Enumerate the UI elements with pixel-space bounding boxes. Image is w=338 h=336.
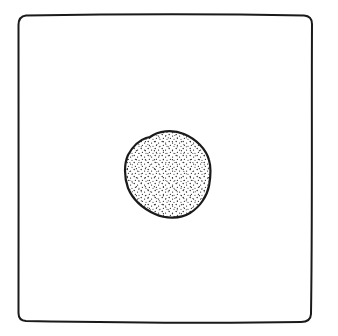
diagram-canvas: Hand-drawn square frame containing a sin… <box>0 0 338 336</box>
diagram-svg <box>0 0 338 336</box>
stippled-circle <box>125 131 211 217</box>
